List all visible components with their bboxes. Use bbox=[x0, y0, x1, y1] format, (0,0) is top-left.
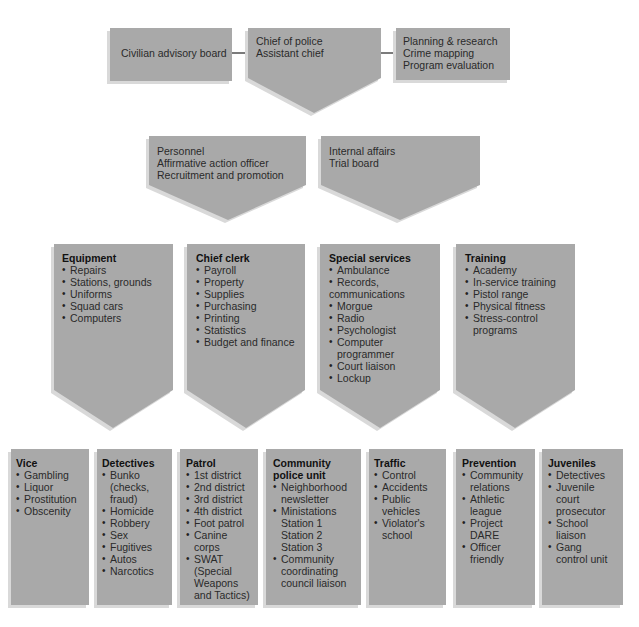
list-item: School bbox=[548, 517, 607, 529]
list-item: 2nd district bbox=[186, 481, 250, 493]
list-item-continued: newsletter bbox=[273, 493, 347, 505]
line: Civilian advisory board bbox=[121, 47, 227, 59]
list-item: Canine bbox=[186, 529, 250, 541]
list-item: Narcotics bbox=[102, 565, 155, 577]
list-item: Supplies bbox=[196, 288, 295, 300]
list-item: Court liaison bbox=[329, 360, 411, 372]
unit-title: Juveniles bbox=[548, 457, 607, 469]
line: Crime mapping bbox=[403, 47, 498, 59]
list-item: Ambulance bbox=[329, 264, 411, 276]
list-item: Lockup bbox=[329, 372, 411, 384]
list-item: Gang bbox=[548, 541, 607, 553]
unit-title: Training bbox=[465, 252, 556, 264]
list-item: Stations, grounds bbox=[62, 276, 152, 288]
list-item-continued: DARE bbox=[462, 529, 523, 541]
list-item: Foot patrol bbox=[186, 517, 250, 529]
line: Program evaluation bbox=[403, 59, 498, 71]
list-item: Violator's bbox=[374, 517, 428, 529]
list-item-continued: programmer bbox=[329, 348, 411, 360]
list-item: SWAT bbox=[186, 553, 250, 565]
unit-title-line2: police unit bbox=[273, 469, 347, 481]
list-item: Printing bbox=[196, 312, 295, 324]
unit-title: Special services bbox=[329, 252, 411, 264]
list-item: Bunko bbox=[102, 469, 155, 481]
list-item: Sex bbox=[102, 529, 155, 541]
unit-title: Vice bbox=[16, 457, 77, 469]
line: Personnel bbox=[157, 145, 284, 157]
list-item: Pistol range bbox=[465, 288, 556, 300]
list-item-continued: relations bbox=[462, 481, 523, 493]
personnel-label: Personnel Affirmative action officer Rec… bbox=[157, 145, 284, 181]
line: Internal affairs bbox=[329, 145, 395, 157]
list-item-continued: Weapons bbox=[186, 577, 250, 589]
unit-title: Equipment bbox=[62, 252, 152, 264]
sub-item: Station 2 bbox=[273, 529, 347, 541]
vice-label: Vice Gambling Liquor Prostitution Obscen… bbox=[16, 457, 77, 517]
line: Affirmative action officer bbox=[157, 157, 284, 169]
list-item: Autos bbox=[102, 553, 155, 565]
internal-affairs-label: Internal affairs Trial board bbox=[329, 145, 395, 169]
list-item: Ministations bbox=[273, 505, 347, 517]
list-item: Squad cars bbox=[62, 300, 152, 312]
list-item-continued: school bbox=[374, 529, 428, 541]
unit-title: Detectives bbox=[102, 457, 155, 469]
list-item-continued: fraud) bbox=[102, 493, 155, 505]
traffic-label: Traffic Control Accidents Public vehicle… bbox=[374, 457, 428, 541]
sub-item: Station 1 bbox=[273, 517, 347, 529]
chief-label: Chief of police Assistant chief bbox=[256, 35, 324, 59]
list-item-continued: corps bbox=[186, 541, 250, 553]
unit-title: Prevention bbox=[462, 457, 523, 469]
list-item-continued: friendly bbox=[462, 553, 523, 565]
special-services-label: Special services Ambulance Records, comm… bbox=[329, 252, 411, 384]
line: Chief of police bbox=[256, 35, 324, 47]
list-item: Community bbox=[462, 469, 523, 481]
civilian-advisory-label: Civilian advisory board bbox=[121, 47, 227, 59]
list-item: Liquor bbox=[16, 481, 77, 493]
list-item-continued: liaison bbox=[548, 529, 607, 541]
list-item: Repairs bbox=[62, 264, 152, 276]
list-item: Purchasing bbox=[196, 300, 295, 312]
list-item: Neighborhood bbox=[273, 481, 347, 493]
list-item: Statistics bbox=[196, 324, 295, 336]
list-item-continued: and Tactics) bbox=[186, 589, 250, 601]
list-item: Juvenile bbox=[548, 481, 607, 493]
chief-clerk-label: Chief clerk Payroll Property Supplies Pu… bbox=[196, 252, 295, 348]
patrol-label: Patrol 1st district 2nd district 3rd dis… bbox=[186, 457, 250, 601]
list-item-continued: prosecutor bbox=[548, 505, 607, 517]
list-item: Morgue bbox=[329, 300, 411, 312]
list-item-continued: communications bbox=[329, 288, 411, 300]
list-item: Uniforms bbox=[62, 288, 152, 300]
prevention-label: Prevention Community relations Athletic … bbox=[462, 457, 523, 565]
list-item: Fugitives bbox=[102, 541, 155, 553]
training-label: Training Academy In-service training Pis… bbox=[465, 252, 556, 336]
list-item: Records, bbox=[329, 276, 411, 288]
unit-title: Traffic bbox=[374, 457, 428, 469]
list-item: Control bbox=[374, 469, 428, 481]
list-item-continued: vehicles bbox=[374, 505, 428, 517]
detectives-label: Detectives Bunko (checks, fraud) Homicid… bbox=[102, 457, 155, 577]
list-item: 3rd district bbox=[186, 493, 250, 505]
list-item: Academy bbox=[465, 264, 556, 276]
list-item-continued: (Special bbox=[186, 565, 250, 577]
unit-title: Patrol bbox=[186, 457, 250, 469]
list-item: 4th district bbox=[186, 505, 250, 517]
unit-title: Community bbox=[273, 457, 347, 469]
list-item: Budget and finance bbox=[196, 336, 295, 348]
list-item-continued: control unit bbox=[548, 553, 607, 565]
list-item: Physical fitness bbox=[465, 300, 556, 312]
list-item: Prostitution bbox=[16, 493, 77, 505]
list-item: Radio bbox=[329, 312, 411, 324]
planning-label: Planning & research Crime mapping Progra… bbox=[403, 35, 498, 71]
list-item: Computers bbox=[62, 312, 152, 324]
list-item: Property bbox=[196, 276, 295, 288]
list-item: Stress-control bbox=[465, 312, 556, 324]
list-item: Homicide bbox=[102, 505, 155, 517]
list-item-continued: league bbox=[462, 505, 523, 517]
list-item: Accidents bbox=[374, 481, 428, 493]
list-item: Public bbox=[374, 493, 428, 505]
list-item: In-service training bbox=[465, 276, 556, 288]
list-item: Robbery bbox=[102, 517, 155, 529]
line: Trial board bbox=[329, 157, 395, 169]
list-item-continued: coordinating bbox=[273, 565, 347, 577]
line: Planning & research bbox=[403, 35, 498, 47]
